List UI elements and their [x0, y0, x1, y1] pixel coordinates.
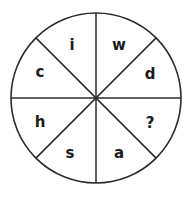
sector-label-bottom-right: a [106, 140, 132, 166]
sector-label-right-upper: d [137, 61, 163, 87]
sector-label-top-left: i [59, 32, 85, 58]
wheel-graphic [0, 0, 193, 199]
sector-label-left-upper: c [27, 59, 53, 85]
sector-label-bottom-left: s [57, 140, 83, 166]
sector-label-top-right: w [106, 32, 132, 58]
sector-wheel-diagram: i w d ? a s h c [0, 0, 193, 199]
sector-label-left-lower: h [27, 109, 53, 135]
sector-label-right-lower: ? [137, 110, 163, 136]
